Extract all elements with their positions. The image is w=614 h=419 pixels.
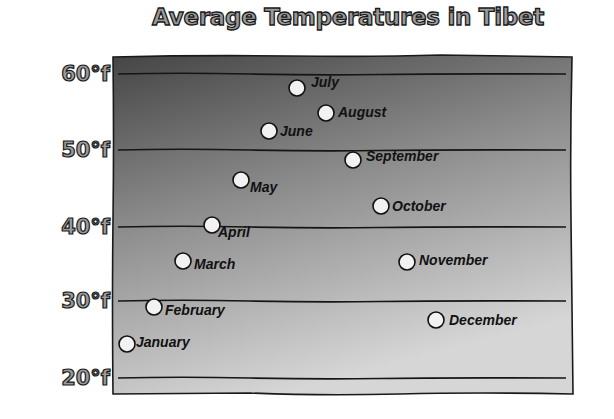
point-label-december: December xyxy=(449,312,517,328)
point-label-may: May xyxy=(250,179,277,195)
plot-area xyxy=(0,0,614,419)
data-point-marker xyxy=(318,105,334,121)
point-label-april: April xyxy=(218,224,250,240)
data-point-marker xyxy=(345,152,361,168)
point-label-october: October xyxy=(392,198,446,214)
data-point-marker xyxy=(428,312,444,328)
point-label-november: November xyxy=(419,252,487,268)
data-point-marker xyxy=(373,198,389,214)
point-label-february: February xyxy=(165,302,225,318)
data-point-marker xyxy=(146,299,162,315)
data-point-marker xyxy=(119,336,135,352)
data-point-marker xyxy=(399,254,415,270)
point-label-september: September xyxy=(366,148,438,164)
data-point-marker xyxy=(289,80,305,96)
data-point-marker xyxy=(261,123,277,139)
point-label-march: March xyxy=(194,256,235,272)
data-point-marker xyxy=(233,172,249,188)
point-label-august: August xyxy=(338,104,386,120)
point-label-june: June xyxy=(280,123,313,139)
point-label-july: July xyxy=(311,74,339,90)
point-label-january: January xyxy=(136,334,190,350)
data-point-marker xyxy=(175,253,191,269)
